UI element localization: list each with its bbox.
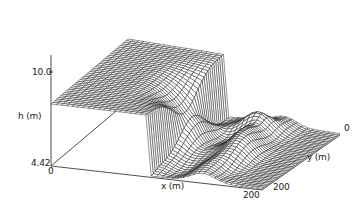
y-axis-label: y (m) bbox=[307, 153, 330, 162]
z-axis-label: h (m) bbox=[18, 112, 41, 121]
x-tick-label-end: 200 bbox=[243, 191, 260, 200]
x-tick-label-origin: 0 bbox=[48, 167, 54, 176]
wireframe-mesh bbox=[51, 39, 340, 189]
surface-plot bbox=[0, 0, 362, 205]
y-tick-label-start: 0 bbox=[344, 124, 350, 133]
y-tick-label-end: 200 bbox=[273, 183, 290, 192]
x-axis-label: x (m) bbox=[161, 182, 184, 191]
z-tick-label-top: 10.0 bbox=[32, 68, 51, 77]
